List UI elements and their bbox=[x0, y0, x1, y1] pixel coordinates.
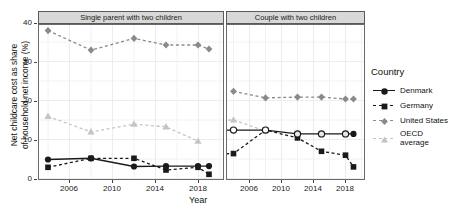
facet-label-couple: Couple with two children bbox=[255, 13, 336, 22]
triangle-marker-icon bbox=[380, 135, 389, 144]
legend-item-germany[interactable]: Germany bbox=[373, 99, 433, 111]
legend-key-germany bbox=[373, 99, 395, 111]
x-tick-mark bbox=[345, 180, 346, 183]
x-tick-label-2014: 2014 bbox=[298, 184, 328, 193]
legend-label-germany: Germany bbox=[400, 101, 433, 110]
x-tick-label-2006: 2006 bbox=[234, 184, 264, 193]
legend-label-denmark: Denmark bbox=[400, 86, 432, 95]
legend-item-united-states[interactable]: United States bbox=[373, 114, 448, 126]
legend-item-oecd-average[interactable]: OECD average bbox=[373, 129, 452, 147]
gridlines-single-parent bbox=[39, 25, 223, 179]
facet-panel-single-parent bbox=[38, 24, 224, 180]
series-denmark-couple bbox=[227, 127, 357, 137]
circle-marker-icon bbox=[380, 87, 389, 96]
legend-key-denmark bbox=[373, 84, 395, 96]
y-tick-label-30: 30 bbox=[10, 57, 32, 66]
diamond-marker-icon bbox=[380, 117, 389, 126]
x-tick-label-2014: 2014 bbox=[140, 184, 170, 193]
y-tick-mark bbox=[34, 140, 37, 141]
legend-label-united-states: United States bbox=[400, 116, 448, 125]
legend-label-oecd-average: OECD average bbox=[400, 129, 452, 147]
x-tick-mark bbox=[313, 180, 314, 183]
x-tick-label-2010: 2010 bbox=[266, 184, 296, 193]
y-tick-label-10: 10 bbox=[10, 135, 32, 144]
x-tick-mark bbox=[198, 180, 199, 183]
legend-title: Country bbox=[371, 66, 404, 77]
y-tick-label-0: 0 bbox=[10, 174, 32, 183]
x-tick-label-2006: 2006 bbox=[54, 184, 84, 193]
x-tick-mark bbox=[155, 180, 156, 183]
chart-root: Net childcare cost as share of household… bbox=[0, 0, 452, 210]
y-axis-title: Net childcare cost as share bbox=[9, 10, 19, 180]
y-tick-mark bbox=[34, 23, 37, 24]
x-tick-mark bbox=[249, 180, 250, 183]
legend-key-oecd-average bbox=[373, 132, 395, 144]
x-tick-mark bbox=[112, 180, 113, 183]
plot-svg-single-parent bbox=[39, 25, 223, 179]
y-axis-title-second-line: of household net income (%) bbox=[20, 10, 30, 180]
facet-panel-couple bbox=[226, 24, 365, 180]
y-tick-label-20: 20 bbox=[10, 96, 32, 105]
square-marker-icon bbox=[380, 102, 389, 111]
y-tick-mark bbox=[34, 101, 37, 102]
x-tick-mark bbox=[281, 180, 282, 183]
x-tick-label-2018: 2018 bbox=[330, 184, 360, 193]
facet-label-single-parent: Single parent with two children bbox=[80, 13, 182, 22]
x-tick-mark bbox=[69, 180, 70, 183]
x-axis-title: Year bbox=[189, 195, 207, 205]
y-tick-mark bbox=[34, 179, 37, 180]
facet-strip-couple: Couple with two children bbox=[226, 11, 365, 24]
facet-strip-single-parent: Single parent with two children bbox=[38, 11, 224, 24]
y-tick-mark bbox=[34, 62, 37, 63]
legend-key-united-states bbox=[373, 114, 395, 126]
legend-item-denmark[interactable]: Denmark bbox=[373, 84, 432, 96]
x-tick-label-2010: 2010 bbox=[97, 184, 127, 193]
y-tick-label-40: 40 bbox=[10, 18, 32, 27]
x-tick-label-2018: 2018 bbox=[183, 184, 213, 193]
plot-svg-couple bbox=[227, 25, 364, 179]
